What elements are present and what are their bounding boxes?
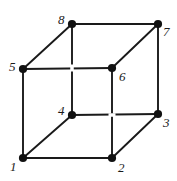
vertex-dot-7 [154, 20, 162, 28]
vertex-label-4: 4 [58, 104, 65, 117]
vertex-label-8: 8 [58, 13, 65, 26]
cube-edge-5-8 [23, 24, 72, 69]
vertex-label-5: 5 [9, 60, 16, 73]
vertex-dot-1 [19, 154, 27, 162]
cube-diagram-figure: 12345678 [0, 0, 177, 181]
vertex-dot-3 [154, 110, 162, 118]
cube-edge-6-7 [112, 24, 158, 68]
occlusion-gap-group [72, 65, 116, 116]
visible-edge-group [23, 24, 158, 158]
cube-graphic [0, 0, 177, 181]
vertex-label-3: 3 [163, 116, 170, 129]
vertex-label-7: 7 [163, 25, 170, 38]
cube-edge-6-5 [23, 68, 112, 69]
vertex-dot-4 [68, 111, 76, 119]
vertex-label-1: 1 [10, 160, 17, 173]
vertex-dot-8 [68, 20, 76, 28]
cube-edge-2-3 [112, 114, 158, 158]
cube-edge-1-4 [23, 115, 72, 158]
vertex-dot-5 [19, 65, 27, 73]
vertex-dot-6 [108, 64, 116, 72]
vertex-label-6: 6 [119, 70, 126, 83]
vertex-dot-2 [108, 154, 116, 162]
vertex-label-2: 2 [118, 161, 125, 174]
